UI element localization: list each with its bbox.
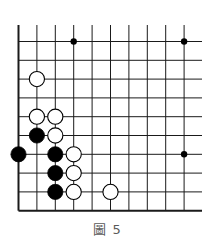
star-point-icon [71, 38, 77, 44]
white-stone-icon [66, 184, 81, 199]
figure-caption: 圖 5 [0, 219, 215, 238]
black-stone-icon [48, 166, 63, 181]
black-stone-icon [48, 147, 63, 162]
white-stone-icon [48, 109, 63, 124]
black-stone-icon [48, 184, 63, 199]
white-stone-icon [29, 109, 44, 124]
black-stone-icon [11, 147, 26, 162]
white-stone-icon [48, 128, 63, 143]
star-point-icon [181, 151, 187, 157]
grid-lines [19, 25, 203, 211]
white-stone-icon [66, 166, 81, 181]
black-stone-icon [29, 128, 44, 143]
white-stone-icon [66, 147, 81, 162]
star-point-icon [181, 38, 187, 44]
white-stone-icon [103, 184, 118, 199]
white-stone-icon [29, 72, 44, 87]
go-board [0, 0, 215, 215]
